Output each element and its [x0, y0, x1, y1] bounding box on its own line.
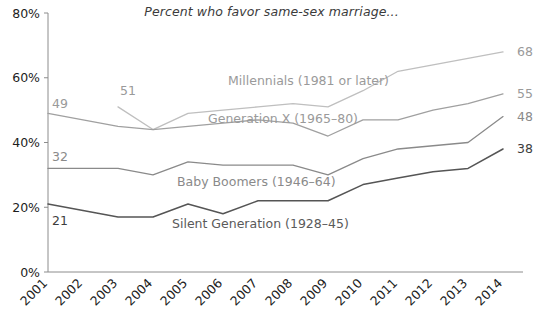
- end-value-baby-boomers-1946-64: 48: [517, 109, 533, 124]
- x-tick-label: 2004: [122, 275, 155, 308]
- y-axis: 0%20%40%60%80%: [12, 6, 48, 280]
- x-tick-label: 2001: [17, 276, 50, 309]
- end-value-millennials-1981-or-later: 68: [517, 44, 533, 59]
- x-tick-label: 2007: [227, 276, 260, 309]
- y-tick-label: 80%: [12, 6, 40, 21]
- series-label-generation-x-1965-80: Generation X (1965–80): [208, 111, 358, 126]
- end-value-silent-generation-1928-45: 38: [517, 141, 533, 156]
- y-tick-label: 20%: [12, 200, 40, 215]
- start-value-silent-generation-1928-45: 21: [52, 213, 68, 228]
- series-label-silent-generation-1928-45: Silent Generation (1928–45): [172, 216, 349, 231]
- start-value-millennials-1981-or-later: 51: [120, 83, 136, 98]
- start-value-baby-boomers-1946-64: 32: [52, 149, 68, 164]
- line-chart-plot: 0%20%40%60%80% 2001200220032004200520062…: [0, 0, 543, 317]
- y-tick-label: 40%: [12, 135, 40, 150]
- x-tick-label: 2014: [472, 275, 505, 308]
- x-tick-label: 2003: [87, 276, 120, 309]
- end-value-generation-x-1965-80: 55: [517, 86, 533, 101]
- x-tick-label: 2009: [297, 275, 330, 308]
- series-label-baby-boomers-1946-64: Baby Boomers (1946–64): [177, 174, 336, 189]
- start-value-generation-x-1965-80: 49: [52, 96, 68, 111]
- x-tick-label: 2002: [52, 276, 85, 309]
- chart-container: Percent who favor same-sex marriage... 0…: [0, 0, 543, 317]
- series-labels: Millennials (1981 or later)Generation X …: [172, 73, 389, 231]
- x-tick-label: 2012: [402, 276, 435, 309]
- x-tick-label: 2011: [367, 276, 400, 309]
- y-tick-label: 60%: [12, 70, 40, 85]
- x-tick-label: 2005: [157, 276, 190, 309]
- x-tick-label: 2010: [332, 275, 365, 308]
- series-label-millennials-1981-or-later: Millennials (1981 or later): [228, 73, 389, 88]
- x-tick-label: 2006: [192, 275, 225, 308]
- x-tick-label: 2013: [437, 276, 470, 309]
- x-axis: 2001200220032004200520062007200820092010…: [17, 272, 523, 309]
- x-tick-label: 2008: [262, 275, 295, 308]
